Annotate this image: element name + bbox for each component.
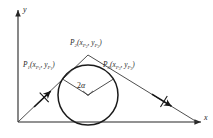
label-point-p1: P1(xP1, yP1) (22, 60, 55, 71)
geometry-figure: x y (0, 0, 213, 138)
label-point-p3: P3(xP3, yP3) (102, 60, 135, 71)
angle-label-greek: α (81, 81, 86, 90)
p3-coord-close: ) (131, 60, 135, 69)
radii-group (63, 79, 114, 96)
y-axis-label: y (22, 5, 27, 14)
right-ray-direction-arrow (149, 89, 175, 112)
x-axis-label: x (203, 113, 208, 122)
angle-label-2alpha: 2α (77, 81, 86, 90)
p2-coord-close: ) (98, 38, 102, 47)
radius-to-p3 (88, 79, 114, 95)
label-point-p2: P2(xP2, yP2) (69, 38, 102, 49)
p1-coord-close: ) (51, 60, 55, 69)
figure-canvas: x y (0, 0, 213, 138)
